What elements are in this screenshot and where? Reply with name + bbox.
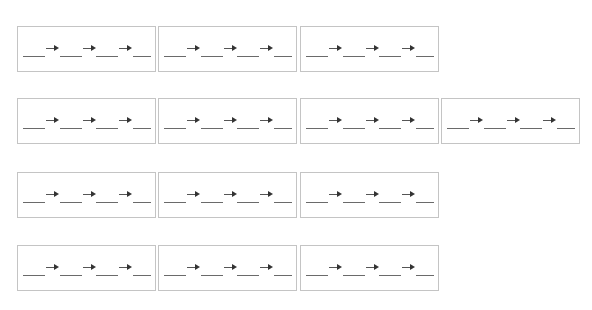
right-arrow-icon (83, 44, 96, 53)
right-arrow-icon (260, 116, 273, 125)
answer-blank[interactable] (343, 275, 365, 276)
right-arrow-icon (402, 44, 415, 53)
right-arrow-icon (329, 263, 342, 272)
answer-blank[interactable] (164, 128, 186, 129)
right-arrow-icon (187, 263, 200, 272)
answer-blank[interactable] (416, 202, 434, 203)
answer-blank[interactable] (416, 275, 434, 276)
sequence-box (300, 245, 439, 291)
right-arrow-icon (402, 190, 415, 199)
right-arrow-icon (187, 190, 200, 199)
answer-blank[interactable] (164, 275, 186, 276)
answer-blank[interactable] (133, 128, 151, 129)
sequence-box (17, 98, 156, 144)
answer-blank[interactable] (60, 56, 82, 57)
answer-blank[interactable] (164, 56, 186, 57)
answer-blank[interactable] (237, 56, 259, 57)
answer-blank[interactable] (96, 275, 118, 276)
right-arrow-icon (260, 263, 273, 272)
sequence-box (17, 245, 156, 291)
right-arrow-icon (507, 116, 520, 125)
answer-blank[interactable] (60, 202, 82, 203)
answer-blank[interactable] (306, 275, 328, 276)
answer-blank[interactable] (274, 202, 292, 203)
right-arrow-icon (402, 263, 415, 272)
right-arrow-icon (366, 190, 379, 199)
right-arrow-icon (260, 190, 273, 199)
right-arrow-icon (470, 116, 483, 125)
answer-blank[interactable] (379, 275, 401, 276)
answer-blank[interactable] (23, 275, 45, 276)
right-arrow-icon (260, 44, 273, 53)
sequence-box (17, 172, 156, 218)
right-arrow-icon (119, 263, 132, 272)
answer-blank[interactable] (237, 275, 259, 276)
right-arrow-icon (366, 44, 379, 53)
right-arrow-icon (224, 116, 237, 125)
right-arrow-icon (187, 44, 200, 53)
answer-blank[interactable] (379, 202, 401, 203)
answer-blank[interactable] (133, 275, 151, 276)
answer-blank[interactable] (201, 275, 223, 276)
answer-blank[interactable] (60, 128, 82, 129)
answer-blank[interactable] (60, 275, 82, 276)
sequence-box (158, 26, 297, 72)
sequence-box (17, 26, 156, 72)
answer-blank[interactable] (237, 202, 259, 203)
answer-blank[interactable] (274, 56, 292, 57)
answer-blank[interactable] (133, 56, 151, 57)
answer-blank[interactable] (343, 202, 365, 203)
answer-blank[interactable] (447, 128, 469, 129)
right-arrow-icon (543, 116, 556, 125)
sequence-box (158, 98, 297, 144)
right-arrow-icon (83, 116, 96, 125)
right-arrow-icon (329, 44, 342, 53)
answer-blank[interactable] (379, 128, 401, 129)
sequence-box (441, 98, 580, 144)
answer-blank[interactable] (201, 202, 223, 203)
answer-blank[interactable] (379, 56, 401, 57)
answer-blank[interactable] (23, 202, 45, 203)
answer-blank[interactable] (164, 202, 186, 203)
sequence-box (300, 98, 439, 144)
answer-blank[interactable] (201, 128, 223, 129)
answer-blank[interactable] (274, 275, 292, 276)
right-arrow-icon (224, 190, 237, 199)
answer-blank[interactable] (237, 128, 259, 129)
answer-blank[interactable] (96, 128, 118, 129)
answer-blank[interactable] (343, 56, 365, 57)
right-arrow-icon (119, 44, 132, 53)
right-arrow-icon (46, 116, 59, 125)
answer-blank[interactable] (343, 128, 365, 129)
right-arrow-icon (46, 190, 59, 199)
right-arrow-icon (402, 116, 415, 125)
answer-blank[interactable] (23, 128, 45, 129)
sequence-box (158, 245, 297, 291)
right-arrow-icon (224, 263, 237, 272)
sequence-box (158, 172, 297, 218)
answer-blank[interactable] (520, 128, 542, 129)
answer-blank[interactable] (96, 202, 118, 203)
sequence-box (300, 172, 439, 218)
answer-blank[interactable] (274, 128, 292, 129)
right-arrow-icon (46, 263, 59, 272)
answer-blank[interactable] (416, 128, 434, 129)
right-arrow-icon (224, 44, 237, 53)
right-arrow-icon (366, 263, 379, 272)
right-arrow-icon (83, 190, 96, 199)
answer-blank[interactable] (23, 56, 45, 57)
answer-blank[interactable] (416, 56, 434, 57)
right-arrow-icon (46, 44, 59, 53)
right-arrow-icon (83, 263, 96, 272)
answer-blank[interactable] (484, 128, 506, 129)
answer-blank[interactable] (201, 56, 223, 57)
right-arrow-icon (329, 116, 342, 125)
answer-blank[interactable] (306, 128, 328, 129)
right-arrow-icon (187, 116, 200, 125)
right-arrow-icon (329, 190, 342, 199)
answer-blank[interactable] (306, 202, 328, 203)
answer-blank[interactable] (133, 202, 151, 203)
answer-blank[interactable] (557, 128, 575, 129)
answer-blank[interactable] (306, 56, 328, 57)
answer-blank[interactable] (96, 56, 118, 57)
